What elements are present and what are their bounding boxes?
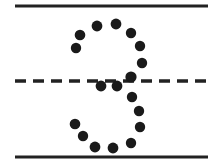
dot-upper-right-lower	[137, 58, 147, 68]
dot-lower-right-low	[135, 122, 145, 132]
dot-lower-left-lower	[78, 131, 88, 141]
figure-canvas	[0, 0, 223, 165]
dot-pattern-figure	[0, 0, 223, 165]
dot-upper-crest-right	[111, 19, 122, 30]
dot-lower-left-upper	[70, 119, 81, 130]
dot-upper-right-mid	[135, 41, 145, 51]
dot-bottom-right	[108, 143, 119, 154]
dot-upper-crest-left	[92, 21, 103, 32]
dot-upper-left-outer	[71, 43, 81, 53]
dot-lower-right-upper	[127, 92, 137, 102]
dot-waist-right	[125, 71, 136, 82]
dot-lower-right-mid	[134, 106, 144, 116]
dot-waist-left	[96, 81, 107, 92]
dot-upper-right-upper	[126, 28, 136, 38]
dot-bottom-left	[90, 142, 101, 153]
dot-waist-center	[112, 81, 123, 92]
dot-lower-right-tail	[126, 138, 136, 148]
dot-upper-left-upper	[75, 30, 86, 41]
